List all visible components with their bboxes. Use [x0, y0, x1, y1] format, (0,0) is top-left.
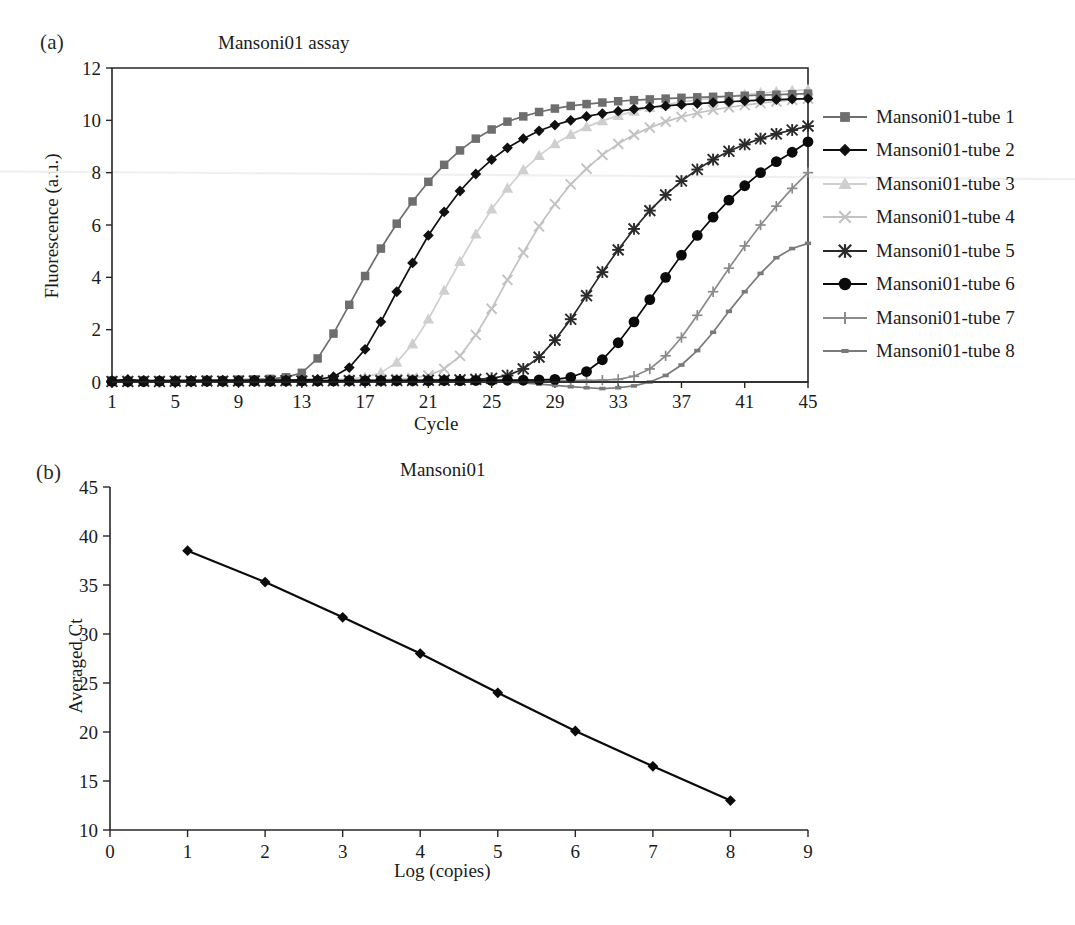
- svg-text:45: 45: [79, 477, 98, 498]
- svg-text:10: 10: [82, 110, 101, 131]
- svg-text:9: 9: [803, 841, 813, 862]
- figure-container: (a) (b) Mansoni01 assay Mansoni01 Cycle …: [0, 0, 1075, 925]
- legend-item-label: Mansoni01-tube 8: [876, 340, 1015, 362]
- legend-item-label: Mansoni01-tube 6: [876, 273, 1015, 295]
- series-2: [107, 93, 814, 386]
- legend-item-label: Mansoni01-tube 1: [876, 106, 1015, 128]
- legend-item-label: Mansoni01-tube 5: [876, 240, 1015, 262]
- svg-text:20: 20: [79, 722, 98, 743]
- triangle-marker: [822, 173, 868, 195]
- svg-text:2: 2: [92, 319, 102, 340]
- series-3: [106, 84, 813, 386]
- svg-text:29: 29: [545, 391, 564, 412]
- svg-text:40: 40: [79, 526, 98, 547]
- standard-curve-series: [182, 545, 736, 806]
- svg-text:25: 25: [482, 391, 501, 412]
- legend-item-tube-6[interactable]: Mansoni01-tube 6: [822, 268, 1072, 302]
- svg-text:37: 37: [672, 391, 691, 412]
- svg-text:4: 4: [92, 267, 102, 288]
- svg-text:35: 35: [79, 575, 98, 596]
- legend-item-label: Mansoni01-tube 7: [876, 307, 1015, 329]
- dash-marker: [822, 340, 868, 362]
- square-marker: [822, 106, 868, 128]
- series-5: [106, 120, 814, 387]
- svg-text:5: 5: [493, 841, 503, 862]
- plus-marker: [822, 307, 868, 329]
- svg-text:41: 41: [735, 391, 754, 412]
- legend-item-label: Mansoni01-tube 3: [876, 173, 1015, 195]
- svg-text:7: 7: [648, 841, 658, 862]
- series-7: [107, 167, 813, 386]
- svg-text:6: 6: [571, 841, 581, 862]
- legend-item-tube-2[interactable]: Mansoni01-tube 2: [822, 134, 1072, 168]
- legend-item-tube-8[interactable]: Mansoni01-tube 8: [822, 335, 1072, 369]
- svg-text:0: 0: [105, 841, 115, 862]
- svg-text:1: 1: [183, 841, 193, 862]
- svg-text:8: 8: [726, 841, 736, 862]
- legend-item-tube-3[interactable]: Mansoni01-tube 3: [822, 167, 1072, 201]
- legend-item-tube-4[interactable]: Mansoni01-tube 4: [822, 201, 1072, 235]
- svg-text:21: 21: [419, 391, 438, 412]
- legend-item-tube-1[interactable]: Mansoni01-tube 1: [822, 100, 1072, 134]
- panel-b-plot: 10152025303540450123456789: [0, 450, 1075, 870]
- legend-item-label: Mansoni01-tube 4: [876, 206, 1015, 228]
- svg-text:4: 4: [415, 841, 425, 862]
- svg-text:13: 13: [292, 391, 311, 412]
- legend-item-tube-7[interactable]: Mansoni01-tube 7: [822, 301, 1072, 335]
- svg-text:3: 3: [338, 841, 348, 862]
- svg-text:10: 10: [79, 820, 98, 841]
- svg-text:25: 25: [79, 673, 98, 694]
- circle-marker: [822, 273, 868, 295]
- svg-text:30: 30: [79, 624, 98, 645]
- x-marker: [822, 206, 868, 228]
- asterisk-marker: [822, 240, 868, 262]
- svg-text:45: 45: [799, 391, 818, 412]
- svg-text:0: 0: [92, 372, 102, 393]
- legend-item-tube-5[interactable]: Mansoni01-tube 5: [822, 234, 1072, 268]
- svg-text:6: 6: [92, 215, 102, 236]
- svg-text:2: 2: [260, 841, 270, 862]
- legend-item-label: Mansoni01-tube 2: [876, 139, 1015, 161]
- svg-text:33: 33: [609, 391, 628, 412]
- diamond-marker: [822, 139, 868, 161]
- panel-a-legend: Mansoni01-tube 1Mansoni01-tube 2Mansoni0…: [822, 100, 1072, 368]
- series-4: [107, 94, 813, 387]
- svg-text:8: 8: [92, 162, 102, 183]
- svg-text:17: 17: [356, 391, 375, 412]
- svg-text:15: 15: [79, 771, 98, 792]
- svg-text:5: 5: [171, 391, 181, 412]
- svg-text:9: 9: [234, 391, 244, 412]
- svg-text:12: 12: [82, 58, 101, 79]
- svg-text:1: 1: [107, 391, 117, 412]
